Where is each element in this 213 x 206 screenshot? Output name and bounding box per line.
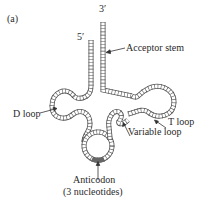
acceptor-stem-arrow bbox=[106, 48, 125, 54]
three-prime-label: 3′ bbox=[99, 3, 106, 14]
d-loop-label: D loop bbox=[13, 108, 41, 119]
anticodon-note: (3 nucleotides) bbox=[63, 186, 123, 197]
three-prime-strand bbox=[103, 22, 132, 96]
five-prime-strand bbox=[74, 40, 91, 98]
variable-loop-label: Variable loop bbox=[128, 126, 182, 137]
t-loop-shape bbox=[128, 86, 174, 116]
anticodon-label: Anticodon bbox=[73, 174, 115, 185]
panel-label: (a) bbox=[7, 13, 18, 24]
five-prime-label: 5′ bbox=[77, 31, 84, 42]
acceptor-stem-label: Acceptor stem bbox=[126, 42, 184, 53]
